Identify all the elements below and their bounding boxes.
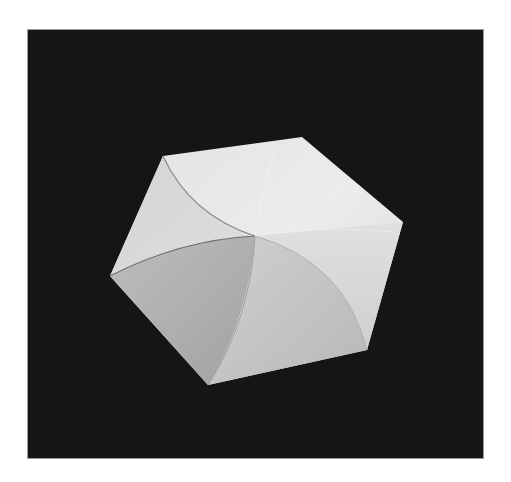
folded-paper-hexagon	[0, 0, 511, 482]
